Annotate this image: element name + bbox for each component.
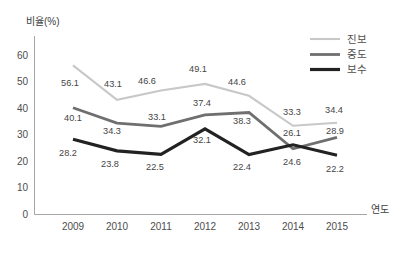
x-tick-label: 2010 [106,221,129,232]
y-tick-label: 50 [17,76,29,87]
plot-area: 6050403020100200920102011201220132014201… [17,50,349,233]
data-label-conservative: 32.1 [193,135,211,145]
x-tick-label: 2015 [326,221,349,232]
data-label-conservative: 28.2 [59,148,77,158]
x-tick-label: 2012 [194,221,217,232]
data-label-progressive: 33.3 [283,107,301,117]
legend-label-moderate: 중도 [347,48,367,60]
data-label-progressive: 43.1 [104,79,122,89]
y-tick-label: 0 [22,209,28,220]
data-label-moderate: 37.4 [193,98,211,108]
y-tick-label: 60 [17,50,29,61]
data-label-conservative: 22.4 [233,162,251,172]
y-axis-title: 비율(%) [26,16,60,27]
x-tick-label: 2009 [62,221,85,232]
data-label-moderate: 33.1 [148,112,166,122]
data-label-moderate: 40.1 [64,113,82,123]
x-axis-title: 연도 [371,204,389,215]
x-tick-label: 2013 [238,221,261,232]
chart-container: 비율(%) 연도 6050403020100200920102011201220… [0,0,408,255]
data-label-moderate: 24.6 [283,157,301,167]
legend-label-progressive: 진보 [347,33,367,45]
y-tick-label: 20 [17,156,29,167]
data-label-moderate: 28.9 [326,126,344,136]
data-label-progressive: 46.6 [138,76,156,86]
legend-item-moderate: 중도 [310,48,367,60]
y-tick-label: 10 [17,182,29,193]
legend: 진보 중도 보수 [310,33,367,76]
data-label-conservative: 23.8 [101,159,119,169]
legend-item-progressive: 진보 [310,33,367,45]
data-label-progressive: 34.4 [325,105,343,115]
data-label-conservative: 22.5 [146,162,164,172]
legend-label-conservative: 보수 [347,63,367,75]
data-label-conservative: 22.2 [326,164,344,174]
data-label-progressive: 56.1 [61,78,79,88]
x-tick-label: 2011 [150,221,172,232]
line-chart: 비율(%) 연도 6050403020100200920102011201220… [0,0,408,255]
y-tick-label: 30 [17,129,29,140]
y-tick-label: 40 [17,103,29,114]
x-tick-label: 2014 [282,221,305,232]
data-label-moderate: 34.3 [103,126,121,136]
data-label-conservative: 26.1 [283,128,301,138]
data-label-moderate: 38.3 [233,116,251,126]
data-label-progressive: 44.6 [228,77,246,87]
data-label-progressive: 49.1 [189,64,207,74]
legend-item-conservative: 보수 [310,63,367,75]
